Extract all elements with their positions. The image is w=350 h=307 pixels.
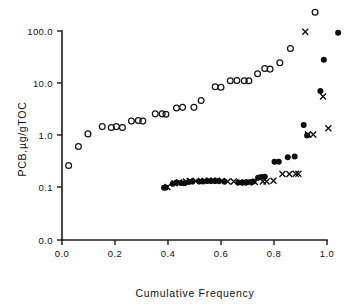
axis-tick-labels: 0.00.20.40.60.81.00.00.11.010.0100.0 bbox=[27, 26, 334, 260]
data-point-open-circle bbox=[66, 163, 72, 169]
chart-figure: 0.00.20.40.60.81.00.00.11.010.0100.0 Cum… bbox=[0, 0, 350, 307]
x-tick-label: 0.2 bbox=[108, 248, 122, 259]
data-series bbox=[66, 9, 341, 190]
data-point-open-circle bbox=[99, 124, 105, 130]
data-point-open-circle bbox=[288, 46, 294, 52]
series-x-markers bbox=[164, 29, 331, 190]
data-point-x-marker bbox=[270, 178, 276, 184]
data-point-x-marker bbox=[286, 171, 292, 177]
y-tick-label: 0.1 bbox=[39, 182, 53, 193]
series-filled-circles bbox=[161, 30, 341, 191]
data-point-open-circle bbox=[152, 111, 158, 117]
data-point-filled-circle bbox=[321, 57, 327, 63]
data-point-open-circle bbox=[129, 118, 135, 124]
x-tick-label: 1.0 bbox=[320, 248, 334, 259]
data-point-x-marker bbox=[302, 29, 308, 35]
data-point-open-circle bbox=[85, 131, 91, 137]
axis-ticks bbox=[57, 31, 327, 245]
data-point-x-marker bbox=[320, 94, 326, 100]
data-point-x-marker bbox=[325, 125, 331, 131]
data-point-filled-circle bbox=[335, 30, 341, 36]
x-tick-label: 0.6 bbox=[214, 248, 228, 259]
data-point-open-circle bbox=[174, 105, 180, 111]
y-tick-label: 100.0 bbox=[27, 26, 53, 37]
y-tick-label: 1.0 bbox=[39, 130, 53, 141]
data-point-open-circle bbox=[312, 9, 318, 15]
x-tick-label: 0.0 bbox=[55, 248, 69, 259]
data-point-open-circle bbox=[227, 78, 233, 84]
data-point-open-circle bbox=[163, 111, 169, 117]
data-point-filled-circle bbox=[292, 154, 298, 160]
y-tick-label: 0.0 bbox=[39, 235, 53, 246]
data-point-open-circle bbox=[212, 84, 218, 90]
data-point-open-circle bbox=[120, 125, 126, 131]
x-tick-label: 0.4 bbox=[161, 248, 175, 259]
data-point-filled-circle bbox=[276, 159, 282, 165]
data-point-open-circle bbox=[198, 98, 204, 104]
data-point-open-circle bbox=[218, 84, 224, 90]
data-point-open-circle bbox=[191, 104, 197, 110]
data-point-x-marker bbox=[310, 132, 316, 138]
axes bbox=[62, 31, 327, 240]
x-tick-label: 0.8 bbox=[267, 248, 281, 259]
data-point-x-marker bbox=[264, 178, 270, 184]
data-point-open-circle bbox=[234, 78, 240, 84]
data-point-open-circle bbox=[76, 144, 82, 150]
data-point-open-circle bbox=[180, 104, 186, 110]
scatter-plot: 0.00.20.40.60.81.00.00.11.010.0100.0 Cum… bbox=[0, 0, 350, 307]
y-tick-label: 10.0 bbox=[33, 78, 53, 89]
data-point-filled-circle bbox=[301, 122, 307, 128]
data-point-open-circle bbox=[277, 60, 283, 66]
series-open-circles bbox=[66, 9, 318, 168]
data-point-open-circle bbox=[255, 71, 261, 77]
data-point-filled-circle bbox=[285, 154, 291, 160]
data-point-x-marker bbox=[279, 171, 285, 177]
y-axis-title: PCB,µg/gTOC bbox=[16, 102, 28, 177]
x-axis-title: Cumulative Frequency bbox=[135, 287, 254, 299]
